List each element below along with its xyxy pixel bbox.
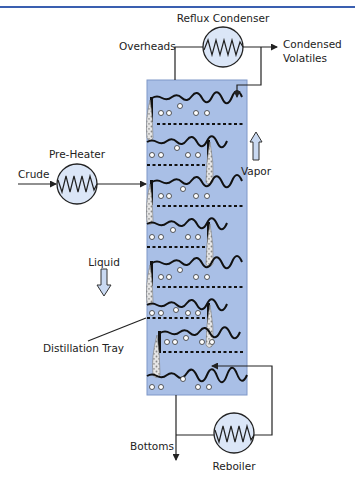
label-vapor: Vapor	[241, 165, 272, 177]
header-rule	[0, 6, 355, 8]
label-distillation-tray: Distillation Tray	[43, 342, 124, 354]
label-condensed: Condensed	[283, 38, 342, 50]
distillation-tray-pointer	[88, 318, 146, 341]
label-overheads: Overheads	[119, 40, 176, 52]
reflux-condenser	[203, 27, 243, 67]
label-liquid: Liquid	[88, 256, 120, 268]
label-pre-heater: Pre-Heater	[49, 148, 106, 160]
label-reflux-condenser: Reflux Condenser	[177, 12, 270, 24]
label-crude: Crude	[18, 168, 49, 180]
label-bottoms: Bottoms	[130, 440, 174, 452]
overheads-pipe	[175, 47, 203, 80]
pre-heater	[57, 164, 97, 204]
reboiler	[214, 413, 254, 453]
liquid-down-arrow-icon	[97, 269, 111, 296]
vapor-up-arrow-icon	[250, 132, 262, 160]
label-reboiler: Reboiler	[213, 460, 257, 472]
distillation-diagram: Reflux Condenser Overheads Condensed Vol…	[0, 0, 355, 486]
label-volatiles: Volatiles	[283, 52, 327, 64]
